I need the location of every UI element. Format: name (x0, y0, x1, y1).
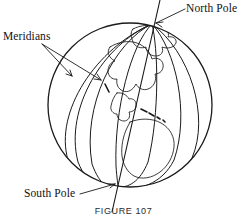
coastline-ticks (105, 84, 109, 92)
continent-outline-south-america (122, 119, 174, 178)
meridians-leaders (42, 44, 101, 80)
label-south-pole: South Pole (24, 188, 75, 200)
meridian-line-3 (90, 24, 152, 188)
continent-outlines (108, 25, 176, 178)
meridian-line-4 (116, 24, 152, 187)
meridian-lines (65, 24, 198, 189)
figure-caption: FIGURE 107 (0, 206, 247, 215)
label-meridians: Meridians (3, 31, 51, 43)
north-pole-leader (156, 9, 185, 27)
label-north-pole: North Pole (186, 3, 237, 15)
figure-globe-meridians: Meridians North Pole South Pole FIGURE 1… (0, 0, 247, 215)
continent-outline-central-america (111, 93, 136, 121)
south-pole-leader (80, 184, 115, 194)
